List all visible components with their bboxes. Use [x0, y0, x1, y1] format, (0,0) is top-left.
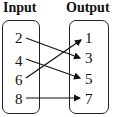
arrow-2-to-3: [26, 38, 80, 58]
arrow-6-to-1: [26, 40, 81, 78]
mapping-arrows: [0, 0, 116, 117]
arrow-4-to-5: [26, 59, 80, 78]
